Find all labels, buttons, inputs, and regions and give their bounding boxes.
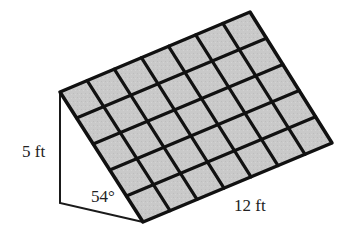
length-label: 12 ft [234, 196, 266, 215]
height-label: 5 ft [22, 142, 45, 161]
angle-label: 54° [91, 187, 115, 206]
diagram-canvas: 5 ft 54° 12 ft [0, 0, 353, 233]
ramp-diagram: 5 ft 54° 12 ft [0, 0, 353, 233]
